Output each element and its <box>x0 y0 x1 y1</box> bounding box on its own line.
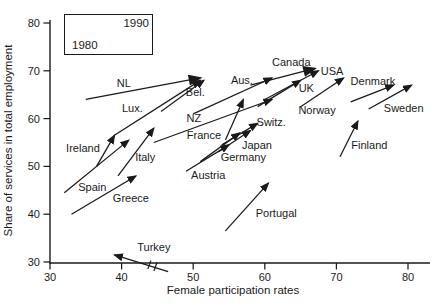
legend-box: 1990 1980 <box>64 14 153 55</box>
country-label-greece: Greece <box>113 192 149 204</box>
country-label-turkey: Turkey <box>137 241 171 253</box>
country-label-italy: Italy <box>135 151 156 163</box>
legend-1990-label: 1990 <box>123 17 149 29</box>
country-label-usa: USA <box>321 65 344 77</box>
x-axis-title: Female participation rates <box>107 284 359 296</box>
y-axis-title: Share of services in total employment <box>2 21 17 261</box>
arrow-nl <box>86 78 201 100</box>
x-tick-label-80: 80 <box>402 271 414 283</box>
x-tick-label-50: 50 <box>187 271 199 283</box>
country-label-france: France <box>187 129 221 141</box>
country-label-germany: Germany <box>221 151 267 163</box>
chart: 304050607080304050607080NLLux.Bel.Irelan… <box>0 0 439 307</box>
country-label-lux: Lux. <box>122 102 143 114</box>
y-tick-label-40: 40 <box>28 208 40 220</box>
y-tick-label-80: 80 <box>28 17 40 29</box>
country-label-finland: Finland <box>351 139 387 151</box>
country-label-aus: Aus. <box>231 74 253 86</box>
y-tick-label-30: 30 <box>28 256 40 268</box>
country-label-bel: Bel. <box>186 86 205 98</box>
country-label-nl: NL <box>117 77 131 89</box>
country-label-norway: Norway <box>298 104 336 116</box>
x-tick-label-40: 40 <box>115 271 127 283</box>
country-label-uk: UK <box>299 82 315 94</box>
legend-1980-label: 1980 <box>72 39 98 51</box>
y-tick-label-50: 50 <box>28 160 40 172</box>
country-label-austria: Austria <box>191 169 226 181</box>
country-label-denmark: Denmark <box>351 75 396 87</box>
arrow-uk <box>258 80 301 106</box>
country-label-sweden: Sweden <box>384 102 424 114</box>
country-label-spain: Spain <box>78 181 106 193</box>
country-label-switz: Switz. <box>257 116 286 128</box>
country-label-ireland: Ireland <box>66 142 100 154</box>
y-tick-label-70: 70 <box>28 65 40 77</box>
y-tick-label-60: 60 <box>28 113 40 125</box>
x-tick-label-30: 30 <box>44 271 56 283</box>
country-label-portugal: Portugal <box>256 207 297 219</box>
country-label-canada: Canada <box>272 56 311 68</box>
country-label-japan: Japan <box>242 139 272 151</box>
x-tick-label-70: 70 <box>330 271 342 283</box>
x-tick-label-60: 60 <box>259 271 271 283</box>
